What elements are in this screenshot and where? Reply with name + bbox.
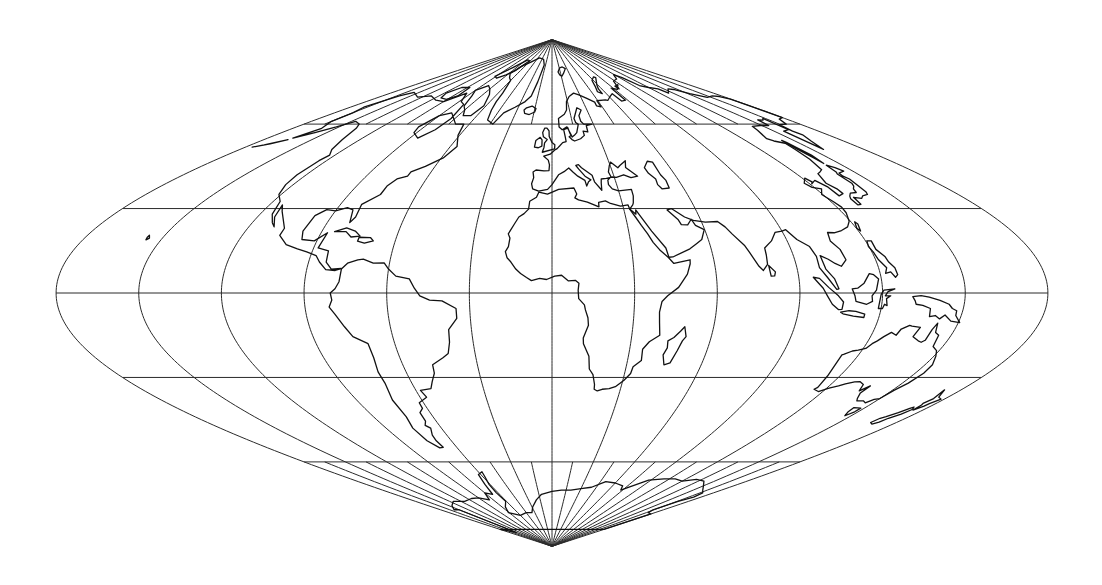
meridian-fan-line: [552, 462, 655, 546]
landmass-cuba: [335, 228, 361, 237]
landmass-new-guinea: [913, 296, 960, 323]
landmass-alaska-aleutians: [252, 140, 288, 148]
world-map: World map — sinusoidal equal-area projec…: [0, 0, 1102, 585]
landmass-hispaniola: [358, 237, 374, 243]
meridian-fan-line: [552, 40, 779, 124]
landmass-south-america: [329, 259, 457, 448]
landmass-philippines: [867, 241, 898, 277]
meridian-fan-line: [552, 462, 779, 546]
meridian-fan-line: [552, 462, 738, 546]
meridian-fan-line: [325, 462, 552, 546]
landmass-borneo: [852, 274, 878, 305]
landmass-new-zealand-south-island: [871, 407, 914, 424]
sinusoidal-projection-map: [0, 0, 1102, 585]
coastlines: [146, 58, 960, 532]
landmass-svalbard: [558, 67, 565, 76]
landmass-ireland: [534, 137, 542, 147]
graticule: [56, 40, 1048, 547]
meridian-fan-line: [366, 462, 552, 546]
landmass-africa: [505, 188, 690, 391]
meridian-fan-line: [449, 462, 552, 546]
landmass-hawaii: [146, 235, 150, 240]
landmass-sulawesi: [878, 289, 895, 309]
landmass-australia: [814, 323, 939, 403]
landmass-madagascar: [663, 327, 686, 365]
landmass-sri-lanka: [769, 265, 776, 276]
meridian-fan-line: [325, 40, 552, 124]
meridian-fan-line: [552, 40, 655, 124]
landmass-japan: [826, 165, 867, 205]
landmass-great-britain: [542, 128, 555, 152]
landmass-java: [841, 311, 865, 318]
landmass-north-america: [272, 92, 467, 270]
landmass-novaya-zemlya: [592, 77, 602, 94]
landmass-caspian-sea: [644, 161, 669, 189]
landmass-eurasia: [532, 75, 850, 290]
